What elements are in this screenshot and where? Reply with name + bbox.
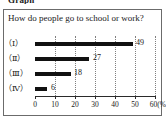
x-axis-tick: [115, 96, 116, 99]
bar-value-label: 27: [93, 53, 101, 62]
x-axis-tick-label: 60(%): [150, 100, 166, 109]
bar-value-label: 49: [136, 38, 144, 47]
x-axis-tick: [75, 96, 76, 99]
x-axis-tick-label: 40: [111, 100, 119, 109]
x-axis-tick: [155, 96, 156, 99]
chart-title: How do people go to school or work?: [8, 13, 144, 24]
bar: [35, 72, 71, 76]
gridline: [155, 36, 156, 96]
x-axis-tick-label: 10: [51, 100, 59, 109]
figure-caption: Graph: [8, 0, 35, 4]
x-axis-tick: [55, 96, 56, 99]
bar: [35, 42, 133, 46]
x-axis-tick-label: 20: [71, 100, 79, 109]
bar: [35, 87, 47, 91]
plot-area: 49 27 18 6: [35, 36, 155, 96]
figure-root: Graph How do people go to school or work…: [0, 0, 166, 120]
x-axis-tick: [35, 96, 36, 99]
category-label-2: （Ⅱ）: [4, 54, 25, 63]
x-axis-tick-label: 30: [91, 100, 99, 109]
bar-value-label: 6: [51, 83, 55, 92]
category-label-1: （Ⅰ）: [4, 39, 23, 48]
bar: [35, 57, 89, 61]
x-axis-tick-label: 0: [33, 100, 37, 109]
x-axis-tick: [95, 96, 96, 99]
x-axis-tick: [135, 96, 136, 99]
bar-value-label: 18: [74, 68, 82, 77]
x-axis-tick-label: 50: [131, 100, 139, 109]
category-label-3: （Ⅲ）: [4, 69, 28, 78]
category-label-4: （Ⅳ）: [4, 84, 28, 93]
